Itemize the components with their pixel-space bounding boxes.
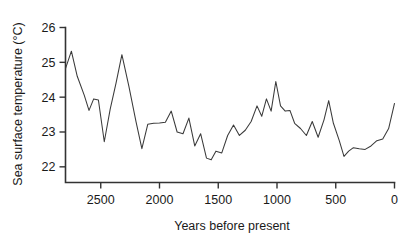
y-axis-title: Sea surface temperature (°C) <box>11 22 25 185</box>
y-tick-label: 23 <box>42 125 56 139</box>
chart-axes: 2223242526 25002000150010005000 <box>42 21 398 207</box>
x-tick-label: 1000 <box>263 193 291 207</box>
x-tick-label: 2500 <box>87 193 115 207</box>
x-axis-title: Years before present <box>174 219 290 233</box>
chart-figure: 2223242526 25002000150010005000 Sea surf… <box>0 0 410 247</box>
x-tick-label: 0 <box>391 193 398 207</box>
x-tick-label: 500 <box>325 193 346 207</box>
sea-surface-temperature-line-chart: 2223242526 25002000150010005000 Sea surf… <box>0 0 410 247</box>
y-tick-label: 25 <box>42 56 56 70</box>
x-tick-label: 1500 <box>204 193 232 207</box>
series-polyline <box>66 51 395 160</box>
y-tick-label: 22 <box>42 160 56 174</box>
axis-lines <box>66 28 395 183</box>
y-tick-label: 26 <box>42 21 56 35</box>
y-axis-ticks: 2223242526 <box>42 21 66 174</box>
x-axis-ticks: 25002000150010005000 <box>87 183 398 207</box>
y-tick-label: 24 <box>42 91 56 105</box>
chart-series-group <box>66 51 395 160</box>
x-tick-label: 2000 <box>146 193 174 207</box>
